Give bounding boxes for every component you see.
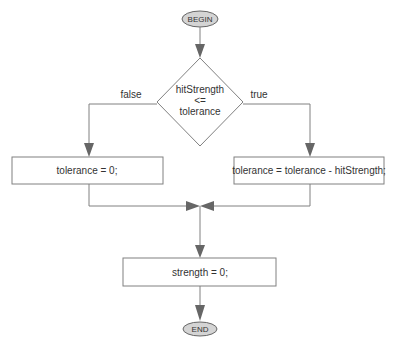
decision-line1: hitStrength (176, 84, 224, 95)
arrow-down-icon (305, 143, 315, 157)
decision-line3: tolerance (179, 106, 221, 117)
false-action-box: tolerance = 0; (12, 157, 163, 184)
arrow-left-icon (200, 201, 214, 211)
arrow-down-icon (195, 245, 205, 258)
begin-label: BEGIN (188, 15, 213, 24)
true-action-label: tolerance = tolerance - hitStrength; (232, 165, 386, 176)
connector-false-merge (89, 184, 188, 206)
flowchart: BEGIN hitStrength <= tolerance false tru… (0, 0, 396, 348)
arrow-right-icon (186, 201, 200, 211)
true-label: true (250, 89, 268, 100)
merge-action-label: strength = 0; (172, 267, 228, 278)
connector-true (243, 104, 310, 148)
true-action-box: tolerance = tolerance - hitStrength; (232, 157, 386, 184)
decision-line2: <= (194, 95, 206, 106)
merge-action-box: strength = 0; (123, 258, 276, 286)
decision-node: hitStrength <= tolerance (157, 58, 243, 146)
begin-node: BEGIN (182, 11, 218, 27)
arrow-down-icon (84, 143, 94, 157)
false-label: false (120, 89, 142, 100)
arrow-down-icon (195, 305, 205, 321)
false-action-label: tolerance = 0; (57, 165, 118, 176)
end-node: END (183, 322, 217, 336)
end-label: END (192, 325, 209, 334)
connector-false (89, 104, 157, 148)
connector-true-merge (212, 184, 310, 206)
arrow-down-icon (195, 44, 205, 58)
